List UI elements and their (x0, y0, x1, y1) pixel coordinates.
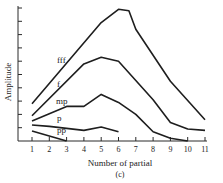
axes (18, 6, 207, 141)
y-ticks (18, 8, 22, 128)
x-tick-label: 7 (134, 145, 138, 154)
y-axis-label: Amplitude (3, 63, 13, 102)
x-tick-label: 6 (117, 145, 121, 154)
series-label-pp: pp (57, 125, 67, 135)
x-tick-label: 4 (82, 145, 86, 154)
series-label-p: p (57, 113, 62, 123)
series-label-fff: fff (57, 55, 66, 65)
x-tick-label: 10 (184, 145, 192, 154)
x-tick-label: 2 (47, 145, 51, 154)
x-tick-label: 8 (151, 145, 155, 154)
x-tick-label: 5 (99, 145, 103, 154)
x-axis-label: Number of partial (88, 158, 153, 168)
amplitude-chart: 1234567891011 ffffmpppp Amplitude Number… (0, 0, 223, 183)
x-tick-label: 11 (201, 145, 209, 154)
curve-p (32, 125, 119, 132)
series-label-mp: mp (56, 96, 68, 106)
figure-caption: (c) (116, 170, 125, 179)
x-tick-label: 9 (168, 145, 172, 154)
x-tick-label: 3 (65, 145, 69, 154)
series-label-f: f (57, 79, 60, 89)
x-tick-label: 1 (30, 145, 34, 154)
series-labels: ffffmpppp (56, 55, 68, 135)
